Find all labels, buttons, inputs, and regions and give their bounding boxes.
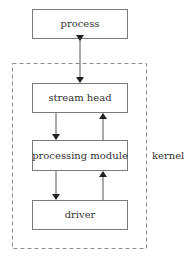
process-node: process bbox=[33, 10, 128, 39]
stream-diagram: kernel process stream head processing mo… bbox=[0, 0, 191, 260]
driver-node: driver bbox=[33, 201, 128, 230]
driver-label: driver bbox=[65, 209, 96, 220]
processing-module-label: processing module bbox=[32, 150, 128, 161]
stream-head-label: stream head bbox=[48, 92, 112, 103]
stream-head-node: stream head bbox=[33, 84, 128, 113]
process-label: process bbox=[61, 18, 100, 29]
processing-module-node: processing module bbox=[32, 141, 128, 171]
kernel-label: kernel bbox=[152, 150, 184, 161]
